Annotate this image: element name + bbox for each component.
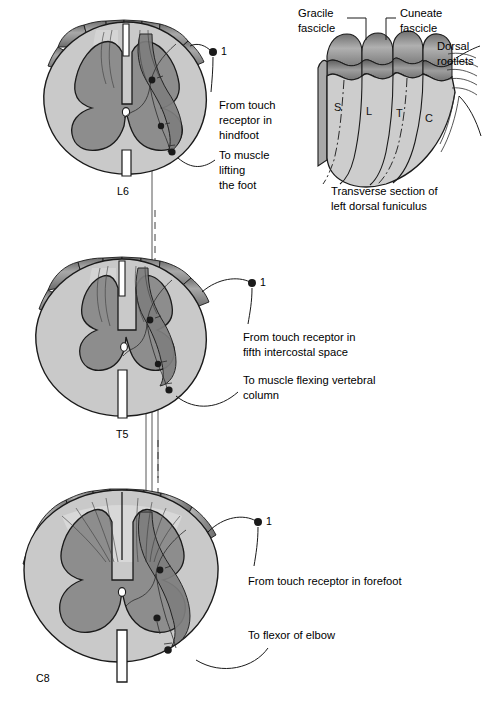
svg-text:left dorsal funiculus: left dorsal funiculus	[331, 200, 427, 212]
level-label-t5: T5	[116, 428, 128, 440]
neuron-soma-c8-a	[157, 567, 164, 574]
neuron-soma-c8-b	[153, 614, 160, 621]
central-canal-t5	[121, 343, 128, 351]
svg-text:Transverse section of: Transverse section of	[331, 185, 438, 197]
segment-letter-l: L	[366, 105, 372, 117]
svg-text:To muscle: To muscle	[219, 149, 269, 161]
label-from-touch-receptor-c8: From touch receptor in forefoot	[248, 575, 402, 587]
svg-text:fascicle: fascicle	[400, 22, 437, 34]
svg-text:column: column	[243, 389, 279, 401]
svg-text:fascicle: fascicle	[298, 22, 335, 34]
svg-text:From touch receptor in forefoo: From touch receptor in forefoot	[248, 575, 402, 587]
marker-dot-c8	[254, 518, 262, 526]
svg-text:From touch receptor in: From touch receptor in	[243, 331, 356, 343]
neuron-soma-l6-b	[158, 123, 164, 129]
marker-dot-l6	[209, 48, 217, 56]
marker-number-l6: 1	[221, 45, 227, 57]
level-label-l6: L6	[117, 185, 129, 197]
neuron-soma-l6-a	[149, 77, 156, 84]
svg-text:hindfoot: hindfoot	[219, 129, 260, 141]
svg-text:Gracile: Gracile	[298, 7, 333, 19]
svg-text:receptor in: receptor in	[219, 114, 272, 126]
svg-text:rootlets: rootlets	[437, 55, 474, 67]
svg-text:the foot: the foot	[219, 179, 257, 191]
label-to-muscle-c8: To flexor of elbow	[248, 629, 336, 641]
segment-letter-s: S	[334, 101, 341, 113]
segment-letter-t: T	[396, 107, 403, 119]
svg-text:To flexor of elbow: To flexor of elbow	[248, 629, 336, 641]
central-canal-c8	[118, 588, 125, 597]
svg-text:From touch: From touch	[219, 99, 276, 111]
figure-root: 1 From touch receptor in hindfoot To mus…	[0, 0, 495, 706]
neuron-soma-t5-a	[147, 317, 154, 324]
neuron-soma-t5-c	[165, 386, 172, 393]
neuron-soma-c8-c	[164, 646, 172, 654]
marker-dot-t5	[248, 279, 256, 287]
svg-text:Cuneate: Cuneate	[400, 7, 442, 19]
marker-number-c8: 1	[266, 515, 272, 527]
spinal-cord-figure: 1 From touch receptor in hindfoot To mus…	[0, 0, 495, 706]
level-label-c8: C8	[36, 672, 50, 684]
neuron-soma-t5-b	[155, 361, 161, 367]
segment-letter-c: C	[425, 112, 433, 124]
svg-text:fifth intercostal space: fifth intercostal space	[243, 346, 348, 358]
central-canal-l6	[122, 108, 129, 117]
svg-text:Dorsal: Dorsal	[437, 40, 469, 52]
neuron-soma-l6-c	[168, 148, 175, 155]
svg-text:To muscle flexing vertebral: To muscle flexing vertebral	[243, 374, 375, 386]
svg-text:lifting: lifting	[219, 164, 245, 176]
marker-number-t5: 1	[260, 276, 266, 288]
